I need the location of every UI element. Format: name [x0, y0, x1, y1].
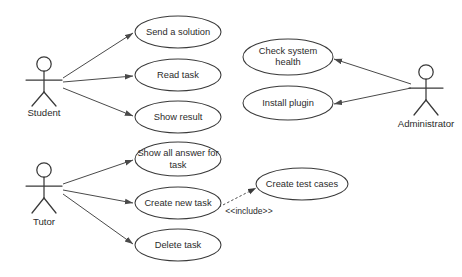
actor-label: Administrator: [398, 118, 455, 129]
use-case-diagram: <<include>> Send a solution Read task Sh…: [0, 0, 462, 277]
use-case-label: Create new task: [144, 198, 212, 208]
use-case-install-plugin[interactable]: Install plugin: [243, 86, 333, 120]
use-case-label: Send a solution: [146, 27, 210, 37]
use-case-label: Read task: [157, 70, 199, 80]
association-administrator-check-system-health: [334, 59, 411, 84]
use-case-ellipse: [135, 142, 221, 176]
actor-administrator[interactable]: Administrator: [398, 65, 455, 129]
use-case-show-result[interactable]: Show result: [135, 101, 221, 133]
use-case-layer: Send a solution Read task Show result Ch…: [135, 16, 348, 261]
actor-label: Tutor: [33, 216, 56, 227]
use-case-label-line2: health: [275, 57, 300, 67]
use-case-label-line2: task: [169, 160, 186, 170]
association-student-send-a-solution: [63, 33, 133, 78]
actor-layer: Student Tutor Administrator: [26, 57, 455, 227]
actor-right-leg-icon: [44, 92, 56, 106]
actor-left-leg-icon: [32, 92, 44, 106]
use-case-label: Delete task: [155, 240, 202, 250]
include-stereotype-label: <<include>>: [225, 206, 272, 216]
use-case-label-line1: Check system: [259, 46, 318, 56]
association-student-show-result: [63, 88, 133, 116]
use-case-label: Create test cases: [266, 179, 339, 189]
use-case-create-test-cases[interactable]: Create test cases: [256, 168, 348, 200]
actor-left-leg-icon: [414, 100, 426, 115]
use-case-label-line1: Show all answer for: [137, 148, 218, 158]
use-case-send-a-solution[interactable]: Send a solution: [135, 16, 221, 48]
actor-right-leg-icon: [44, 198, 56, 213]
use-case-create-new-task[interactable]: Create new task: [135, 187, 221, 219]
use-case-check-system-health[interactable]: Check system health: [243, 39, 333, 75]
actor-head-icon: [419, 65, 433, 79]
include-arrow-create-new-task-create-test-cases: [219, 188, 256, 207]
actor-label: Student: [27, 107, 60, 118]
use-case-delete-task[interactable]: Delete task: [135, 229, 221, 261]
actor-student[interactable]: Student: [26, 57, 62, 118]
use-case-label: Install plugin: [262, 98, 314, 108]
actor-tutor[interactable]: Tutor: [26, 163, 62, 227]
diagram-canvas: <<include>> Send a solution Read task Sh…: [0, 0, 462, 277]
association-administrator-install-plugin: [334, 88, 411, 104]
use-case-read-task[interactable]: Read task: [135, 59, 221, 91]
actor-head-icon: [37, 163, 51, 177]
actor-left-leg-icon: [32, 198, 44, 213]
use-case-label: Show result: [154, 112, 203, 122]
actor-head-icon: [37, 57, 51, 71]
actor-right-leg-icon: [426, 100, 438, 115]
association-student-read-task: [63, 76, 133, 82]
use-case-show-all-answer-for-task[interactable]: Show all answer for task: [135, 142, 221, 176]
association-tutor-show-all-answer-for-task: [63, 160, 133, 184]
